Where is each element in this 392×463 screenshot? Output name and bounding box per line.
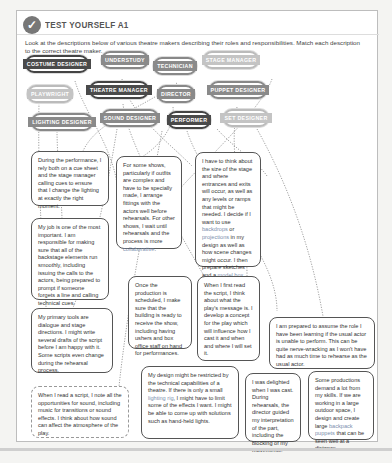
description-box-5: Once the production is scheduled, I make… <box>128 276 192 349</box>
role-performer[interactable]: PERFORMER <box>167 111 211 129</box>
description-box-3: I have to think about the size of the st… <box>195 152 261 267</box>
check-icon: ✓ <box>23 16 41 34</box>
description-box-12: When I read a script, I note all the opp… <box>31 386 129 438</box>
role-theatre-manager[interactable]: THEATRE MANAGER <box>89 81 149 99</box>
description-box-9: My design might be restricted by the tec… <box>141 366 239 439</box>
section-title: TEST YOURSELF A1 <box>45 20 129 30</box>
role-playwright[interactable]: PLAYWRIGHT <box>27 85 73 103</box>
description-box-8: My primary tools are dialogue and stage … <box>31 308 113 373</box>
role-costume-designer[interactable]: COSTUME DESIGNER <box>25 55 89 73</box>
instructions-text: Look at the descriptions below of variou… <box>25 39 365 55</box>
role-set-designer[interactable]: SET DESIGNER <box>223 109 269 127</box>
description-box-4: My job is one of the most important. I a… <box>31 218 109 300</box>
role-lighting-designer[interactable]: LIGHTING DESIGNER <box>31 113 93 131</box>
divider <box>17 34 379 35</box>
description-box-1: During the performance, I rely both on a… <box>31 151 109 206</box>
description-box-10: I was delighted when I was cast. During … <box>245 373 301 442</box>
role-sound-designer[interactable]: SOUND DESIGNER <box>101 109 159 127</box>
worksheet-page: ✓ TEST YOURSELF A1 Look at the descripti… <box>16 10 378 442</box>
section-header: ✓ TEST YOURSELF A1 <box>23 14 138 36</box>
description-box-11: Some productions demand a lot from my sk… <box>308 371 374 440</box>
role-stage-manager[interactable]: STAGE MANAGER <box>203 51 259 69</box>
page-bottom-rule <box>0 448 392 451</box>
description-box-7: I am prepared to assume the role I have … <box>269 317 375 369</box>
role-understudy[interactable]: UNDERSTUDY <box>101 51 149 69</box>
description-box-6: When I first read the script, I think ab… <box>197 276 260 361</box>
role-director[interactable]: DIRECTOR <box>157 85 195 103</box>
description-box-2: For some shows, particularly if outfits … <box>116 156 182 249</box>
role-technician[interactable]: TECHNICIAN <box>153 57 197 75</box>
role-puppet-designer[interactable]: PUPPET DESIGNER <box>209 81 267 99</box>
